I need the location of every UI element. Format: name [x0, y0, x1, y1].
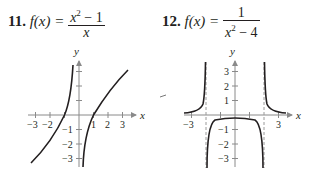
svg-text:3: 3 [120, 119, 125, 130]
graph-12: x y −3 3 3 2 1 −1 −2 −3 [160, 45, 301, 168]
x-axis-label: x [295, 109, 301, 121]
svg-text:3: 3 [276, 119, 281, 130]
svg-text:3: 3 [224, 66, 229, 77]
stray-mark [160, 95, 166, 97]
svg-text:−2: −2 [42, 119, 53, 130]
svg-text:−1: −1 [218, 124, 229, 135]
graphs-canvas: x y −3 −2 1 2 3 −1 −2 −3 x y −3 3 3 2 1 [0, 0, 312, 181]
svg-text:1: 1 [224, 95, 229, 106]
svg-text:2: 2 [224, 81, 229, 92]
svg-text:−1: −1 [62, 124, 73, 135]
curve-right-branch [265, 62, 287, 113]
svg-text:2: 2 [105, 119, 110, 130]
x-axis-label: x [139, 109, 145, 121]
svg-text:−3: −3 [183, 119, 194, 130]
graph-11: x y −3 −2 1 2 3 −1 −2 −3 [27, 45, 145, 167]
y-axis-label: y [229, 45, 235, 57]
svg-text:−2: −2 [218, 139, 229, 150]
svg-text:−3: −3 [27, 119, 38, 130]
svg-text:−3: −3 [62, 153, 73, 164]
svg-text:−2: −2 [62, 139, 73, 150]
y-axis-label: y [73, 45, 79, 57]
svg-text:−3: −3 [218, 153, 229, 164]
curve-left-branch [184, 62, 206, 113]
